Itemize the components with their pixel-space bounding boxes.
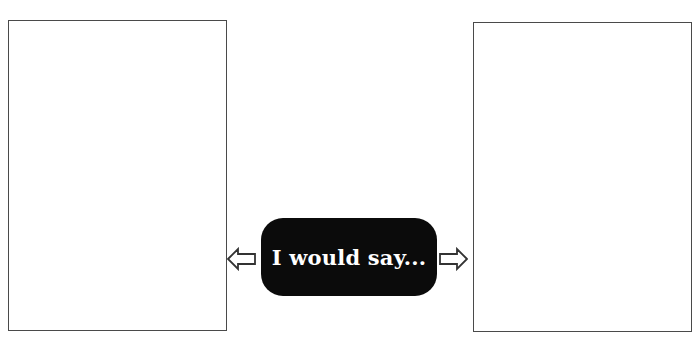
center-label-pill: I would say... xyxy=(261,218,437,296)
right-panel xyxy=(473,22,692,332)
arrow-right-outline-icon xyxy=(438,247,468,271)
arrow-left-outline-icon xyxy=(227,247,257,271)
center-label-text: I would say... xyxy=(272,245,426,270)
left-panel xyxy=(8,20,227,331)
